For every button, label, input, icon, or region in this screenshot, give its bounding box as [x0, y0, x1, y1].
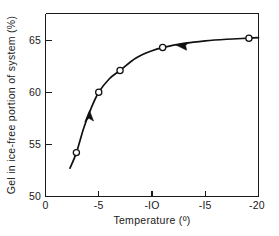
y-tick-label-50: 50 [29, 190, 41, 202]
x-tick-label-minus-10: -IO [144, 199, 159, 211]
y-tick-label-55: 55 [29, 138, 41, 150]
y-tick-labels: 65 60 55 50 [29, 34, 41, 202]
data-point [246, 35, 252, 41]
x-tick-labels: 0 -5 -IO -I5 -20 [42, 199, 264, 211]
data-point [96, 89, 102, 95]
direction-arrows [85, 42, 189, 122]
line-chart: 65 60 55 50 0 -5 -IO -I5 -20 Temperature… [0, 0, 279, 236]
x-tick-label-minus-5: -5 [94, 199, 104, 211]
data-point [73, 150, 79, 156]
data-curve [70, 38, 259, 169]
x-axis-title: Temperature (º) [113, 214, 190, 226]
y-tick-label-65: 65 [29, 34, 41, 46]
x-tick-label-minus-15: -I5 [199, 199, 212, 211]
x-tick-marks [46, 191, 259, 197]
x-tick-label-minus-20: -20 [249, 199, 265, 211]
y-tick-marks [46, 40, 52, 196]
y-tick-label-60: 60 [29, 86, 41, 98]
figure-container: 65 60 55 50 0 -5 -IO -I5 -20 Temperature… [0, 0, 279, 236]
plot-frame [46, 14, 259, 197]
plateau-direction-arrow [176, 42, 189, 50]
data-point [160, 44, 166, 50]
ascending-direction-arrow [85, 111, 94, 122]
data-markers [73, 35, 252, 156]
x-tick-label-0: 0 [42, 199, 48, 211]
caption-strip [0, 226, 279, 236]
y-axis-title: Gel in ice-free portion of system (%) [5, 16, 17, 195]
data-point [117, 67, 123, 73]
